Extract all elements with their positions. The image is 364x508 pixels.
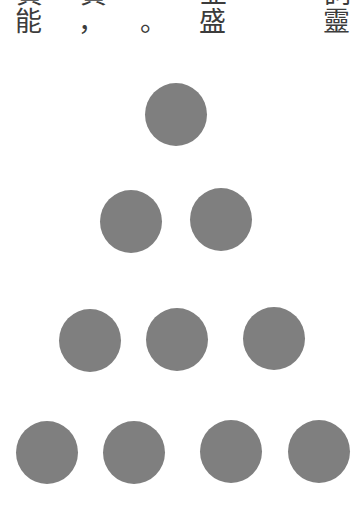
dot-row4-4 <box>288 420 350 483</box>
dot-row4-2 <box>103 421 165 484</box>
glyph-sheng: 盛 <box>199 8 226 35</box>
dot-row3-3 <box>243 307 305 370</box>
dot-row2-2 <box>190 188 252 251</box>
glyph-neng: 能 <box>15 8 42 35</box>
dot-row2-1 <box>100 190 162 253</box>
main-text-row: 能 ， 。 盛 靈 <box>0 0 364 40</box>
dot-row3-1 <box>59 309 121 372</box>
glyph-ling: 靈 <box>323 8 350 35</box>
dot-row1-1 <box>145 83 207 146</box>
dot-row4-3 <box>200 420 262 483</box>
dot-row4-1 <box>16 421 78 484</box>
glyph-comma: ， <box>78 8 105 35</box>
dot-row3-2 <box>146 308 208 371</box>
glyph-period: 。 <box>140 8 167 35</box>
